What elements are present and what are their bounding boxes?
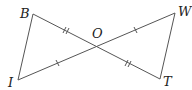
label-T: T bbox=[163, 74, 173, 89]
label-W: W bbox=[178, 4, 192, 19]
label-B: B bbox=[19, 6, 30, 21]
segment-BI bbox=[18, 14, 33, 80]
segment-IW bbox=[18, 13, 175, 80]
label-I: I bbox=[7, 75, 14, 90]
geometry-diagram: B O W I T bbox=[0, 0, 192, 90]
label-O: O bbox=[92, 26, 103, 41]
diagram-svg: B O W I T bbox=[0, 0, 192, 90]
segment-WT bbox=[160, 13, 175, 79]
